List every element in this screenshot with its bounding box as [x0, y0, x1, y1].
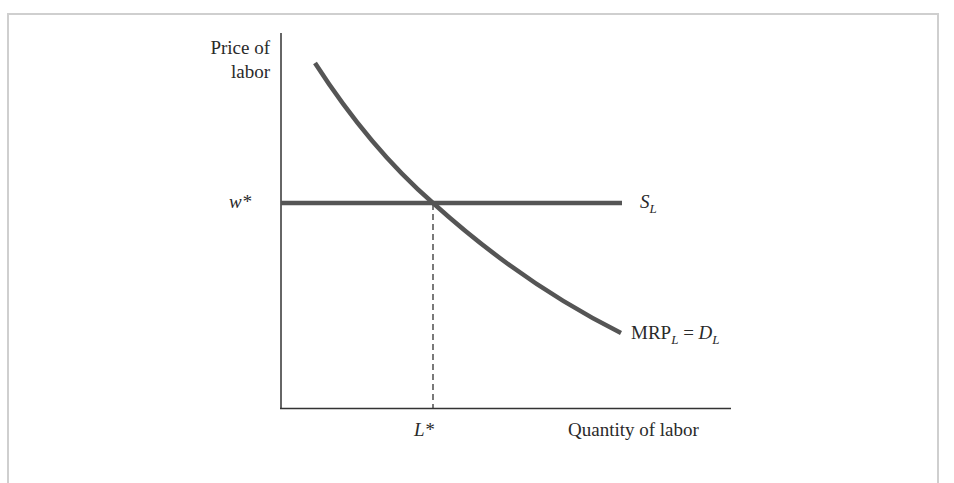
supply-label-main: S [640, 191, 650, 212]
demand-label-d: D [699, 322, 713, 343]
labor-equilibrium-tick-label: L* [414, 418, 434, 442]
demand-label-d-sub: L [712, 332, 719, 347]
y-axis-label: Price of labor [210, 36, 270, 84]
y-axis-label-line1: Price of [210, 36, 270, 60]
y-axis-label-line2: labor [210, 60, 270, 84]
demand-curve-mrp [315, 63, 621, 333]
demand-curve-label: MRPL = DL [631, 321, 720, 347]
demand-label-sub: L [671, 332, 678, 347]
supply-label-sub: L [650, 201, 657, 216]
wage-equilibrium-tick-label: w* [229, 190, 251, 214]
demand-label-equals: = [678, 322, 698, 343]
x-axis-label: Quantity of labor [568, 418, 699, 442]
demand-label-main: MRP [631, 322, 671, 343]
supply-curve-label: SL [640, 190, 657, 216]
